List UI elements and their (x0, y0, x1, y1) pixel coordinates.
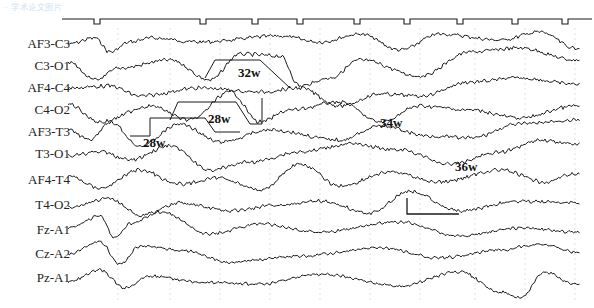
channel-label: C3-O1 (35, 59, 70, 72)
scale-bar (407, 198, 459, 214)
timing-marker-bar (62, 19, 592, 24)
channel-label: C4-O2 (35, 103, 70, 116)
channel-label: AF4-T4 (28, 173, 70, 186)
channel-label: T4-O2 (35, 198, 70, 211)
channel-label: AF4-C4 (27, 81, 70, 94)
channel-label: Pz-A1 (37, 271, 70, 284)
week-annotation: 28w (143, 136, 165, 149)
eeg-trace-af4-c4 (68, 77, 580, 108)
channel-label: Fz-A1 (37, 223, 70, 236)
eeg-trace-af4-t4 (68, 163, 580, 191)
channel-label: Cz-A2 (35, 247, 70, 260)
eeg-traces-plot (0, 0, 594, 308)
eeg-trace-c3-o1 (68, 46, 580, 87)
week-annotation: 36w (455, 160, 477, 173)
channel-label: AF3-T3 (28, 125, 70, 138)
week-annotation: 32w (238, 66, 260, 79)
channel-label: AF3-C3 (27, 37, 70, 50)
eeg-trace-cz-a2 (68, 241, 580, 264)
week-annotation: 34w (380, 116, 402, 129)
eeg-trace-t4-o2 (68, 190, 580, 217)
week-annotation: 28w (208, 112, 230, 125)
channel-label: T3-O1 (35, 147, 70, 160)
eeg-trace-pz-a1 (68, 269, 580, 299)
eeg-figure: AF3-C3 C3-O1 AF4-C4 C4-O2 AF3-T3 T3-O1 A… (0, 0, 594, 308)
